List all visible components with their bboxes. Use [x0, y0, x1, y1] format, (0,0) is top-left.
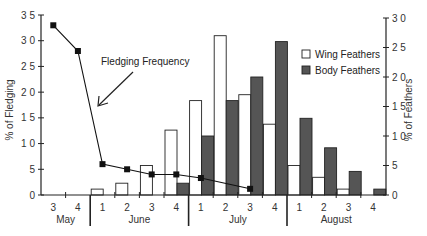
bar-wing-feathers	[140, 166, 152, 196]
bar-wing-feathers	[214, 36, 226, 195]
bar-wing-feathers	[165, 130, 177, 195]
month-label: May	[56, 214, 75, 225]
week-label: 2	[223, 202, 229, 213]
week-label: 3	[346, 202, 352, 213]
left-axis-tick-label: 2 5	[21, 61, 35, 72]
right-axis-tick-label: 5	[392, 160, 398, 171]
bar-body-feathers	[226, 101, 238, 195]
right-axis-tick-label: 0	[392, 190, 398, 201]
bar-wing-feathers	[116, 183, 128, 195]
week-label: 3	[247, 202, 253, 213]
week-label: 4	[272, 202, 278, 213]
bar-body-feathers	[349, 171, 361, 195]
bar-wing-feathers	[263, 124, 275, 195]
line-marker-square	[173, 171, 179, 177]
annotation-fledging-frequency: Fledging Frequency	[101, 56, 189, 67]
week-label: 1	[100, 202, 106, 213]
week-label: 4	[75, 202, 81, 213]
legend-swatch-wing	[302, 50, 310, 58]
bar-body-feathers	[374, 189, 386, 195]
left-axis-tick-label: 2 0	[21, 87, 35, 98]
left-axis-tick-label: 3 0	[21, 35, 35, 46]
bar-body-feathers	[177, 183, 189, 195]
week-label: 1	[198, 202, 204, 213]
left-axis-tick-label: 0	[29, 190, 35, 201]
right-axis-tick-label: 2 5	[392, 42, 406, 53]
legend: Wing Feathers Body Feathers	[302, 49, 380, 76]
line-marker-square	[247, 186, 253, 192]
week-label: 4	[370, 202, 376, 213]
line-marker-square	[149, 171, 155, 177]
month-label: August	[321, 214, 352, 225]
week-label: 2	[124, 202, 130, 213]
bar-body-feathers	[275, 42, 287, 195]
left-axis-tick-label: 1 5	[21, 112, 35, 123]
bar-wing-feathers	[288, 166, 300, 196]
fledging-feathers-chart: 051 01 52 02 53 03 5051 01 52 02 53 034M…	[0, 0, 427, 236]
bar-body-feathers	[325, 148, 337, 195]
week-label: 3	[149, 202, 155, 213]
line-marker-square	[100, 161, 106, 167]
right-axis-title: % of Feathers	[403, 79, 414, 141]
bar-body-feathers	[251, 77, 263, 195]
left-axis-title: % of Fledging	[4, 79, 15, 140]
line-marker-square	[75, 48, 81, 54]
bar-wing-feathers	[239, 95, 251, 195]
annotation-arrow-icon	[98, 72, 133, 106]
line-marker-square	[50, 22, 56, 28]
bar-wing-feathers	[313, 177, 325, 195]
legend-label-wing: Wing Feathers	[315, 49, 380, 60]
left-axis-tick-label: 5	[29, 164, 35, 175]
bar-body-feathers	[300, 118, 312, 195]
legend-swatch-body	[302, 66, 310, 74]
legend-label-body: Body Feathers	[315, 65, 380, 76]
bar-wing-feathers	[337, 189, 349, 195]
week-label: 2	[321, 202, 327, 213]
line-marker-square	[198, 175, 204, 181]
left-axis-tick-label: 1 0	[21, 138, 35, 149]
left-axis-tick-label: 3 5	[21, 10, 35, 21]
week-label: 4	[174, 202, 180, 213]
right-axis-tick-label: 3 0	[392, 13, 406, 24]
bar-body-feathers	[202, 136, 214, 195]
week-label: 1	[297, 202, 303, 213]
week-label: 3	[51, 202, 57, 213]
month-label: July	[229, 214, 247, 225]
month-label: June	[129, 214, 151, 225]
bar-wing-feathers	[91, 189, 103, 195]
line-marker-square	[124, 166, 130, 172]
